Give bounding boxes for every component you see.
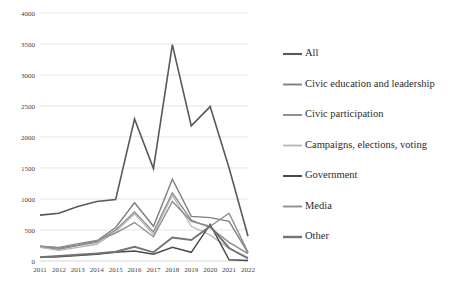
x-tick-label: 2019 <box>184 266 199 274</box>
x-tick-label: 2016 <box>128 266 143 274</box>
y-tick-label: 2000 <box>21 134 36 142</box>
y-tick-label: 3500 <box>21 41 36 49</box>
x-tick-label: 2014 <box>90 266 105 274</box>
legend-label-2: Civic participation <box>305 108 384 119</box>
legend-label-0: All <box>305 47 319 58</box>
legend-label-4: Government <box>305 169 358 180</box>
x-tick-label: 2017 <box>146 266 161 274</box>
x-tick-label: 2020 <box>203 266 218 274</box>
y-tick-label: 4000 <box>21 10 36 18</box>
y-tick-label: 2500 <box>21 103 36 111</box>
y-tick-label: 500 <box>25 227 36 235</box>
x-tick-label: 2011 <box>33 266 47 274</box>
x-tick-label: 2022 <box>241 266 256 274</box>
legend-label-3: Campaigns, elections, voting <box>305 139 428 150</box>
y-axis-tick-labels: 05001000150020002500300035004000 <box>21 10 36 266</box>
legend: AllCivic education and leadershipCivic p… <box>283 47 435 241</box>
series-line-civic-education-and-leadership <box>40 179 248 253</box>
legend-label-6: Other <box>305 230 329 241</box>
line-chart: 05001000150020002500300035004000 2011201… <box>0 0 454 295</box>
legend-label-1: Civic education and leadership <box>305 78 435 89</box>
y-tick-label: 0 <box>32 258 36 266</box>
series-line-campaigns-elections-voting <box>40 195 248 257</box>
y-tick-label: 1500 <box>21 165 36 173</box>
series-lines-group <box>40 45 248 261</box>
chart-canvas: 05001000150020002500300035004000 2011201… <box>0 0 454 295</box>
y-tick-label: 3000 <box>21 72 36 80</box>
legend-label-5: Media <box>305 200 332 211</box>
x-axis-tick-labels: 2011201220132014201520162017201820192020… <box>33 266 255 274</box>
x-tick-label: 2021 <box>222 266 237 274</box>
x-tick-label: 2015 <box>109 266 124 274</box>
x-tick-label: 2018 <box>165 266 180 274</box>
y-tick-label: 1000 <box>21 196 36 204</box>
series-line-all <box>40 45 248 237</box>
x-tick-label: 2013 <box>71 266 86 274</box>
x-tick-label: 2012 <box>52 266 67 274</box>
series-line-other <box>40 226 248 258</box>
